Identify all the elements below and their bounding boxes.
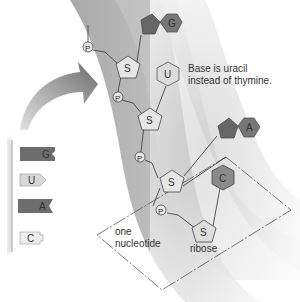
legend-letter: A xyxy=(39,201,46,212)
nucleotide-label-line1: one xyxy=(115,226,132,237)
svg-text:G: G xyxy=(168,18,176,29)
ribose-label: ribose xyxy=(190,243,218,254)
legend-item-g: G xyxy=(20,147,55,161)
legend-letter: G xyxy=(42,149,50,160)
base-c: C xyxy=(212,165,234,190)
phosphate-4: P xyxy=(156,205,166,216)
rna-diagram: G U A C xyxy=(0,0,300,302)
phosphate-1: P xyxy=(83,42,93,53)
svg-text:S: S xyxy=(146,115,153,126)
legend-letter: U xyxy=(28,175,35,186)
svg-text:S: S xyxy=(200,227,207,238)
svg-text:S: S xyxy=(168,177,175,188)
nucleotide-label-line2: nucleotide xyxy=(115,238,161,249)
svg-text:P: P xyxy=(137,154,142,163)
curved-arrow-icon xyxy=(20,62,98,130)
uracil-note-line1: Base is uracil xyxy=(188,63,247,74)
svg-text:P: P xyxy=(85,44,90,53)
legend-item-u: U xyxy=(20,174,46,186)
uracil-note-line2: instead of thymine. xyxy=(188,75,272,86)
svg-text:S: S xyxy=(124,63,131,74)
svg-text:A: A xyxy=(246,122,253,133)
legend-item-c: C xyxy=(20,232,43,244)
phosphate-3: P xyxy=(135,152,145,163)
svg-text:C: C xyxy=(219,173,226,184)
svg-text:U: U xyxy=(164,69,171,80)
fade-overlay xyxy=(150,0,300,302)
base-legend: G U A C xyxy=(8,138,55,253)
legend-item-a: A xyxy=(18,199,53,213)
legend-letter: C xyxy=(27,233,34,244)
phosphate-2: P xyxy=(113,92,123,103)
svg-text:P: P xyxy=(158,207,163,216)
svg-text:P: P xyxy=(115,94,120,103)
